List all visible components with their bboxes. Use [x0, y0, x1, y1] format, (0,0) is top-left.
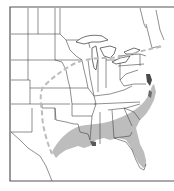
- range-map: [0, 0, 174, 191]
- map-canvas: [0, 0, 174, 191]
